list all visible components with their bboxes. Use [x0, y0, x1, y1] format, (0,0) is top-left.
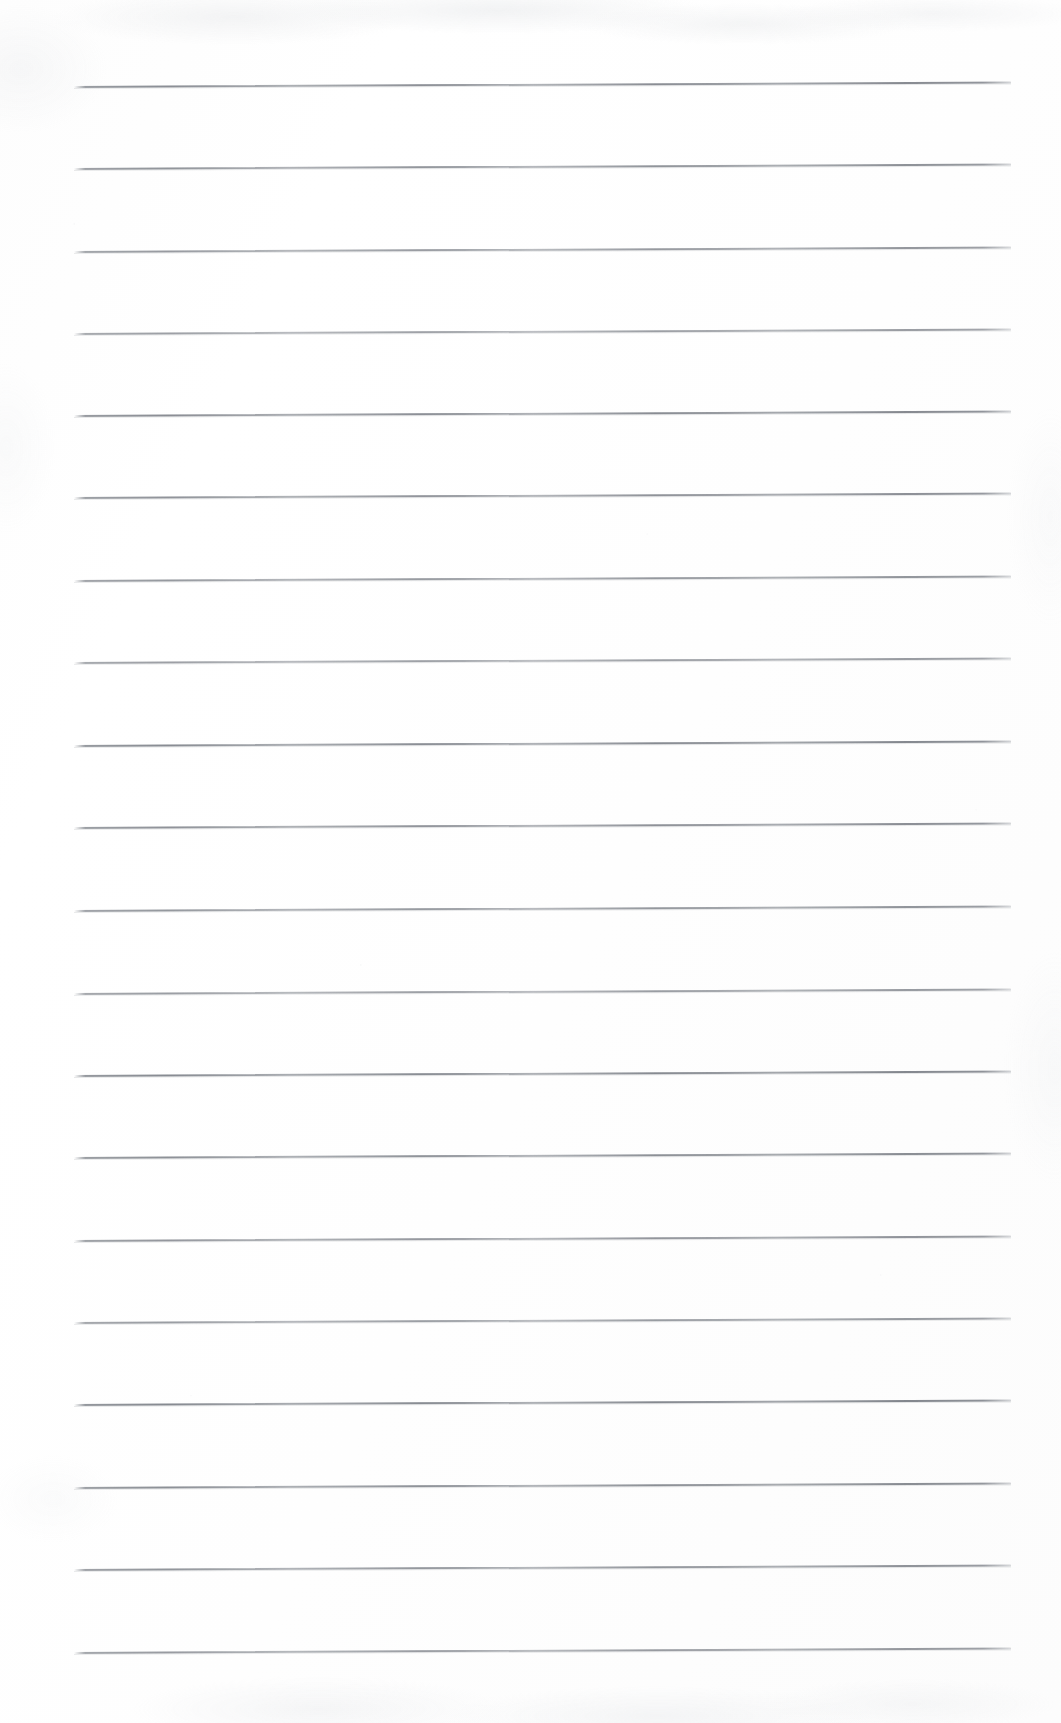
- rule-line-3: [74, 246, 1011, 253]
- rule-line-12: [74, 988, 1011, 995]
- ruled-lines-layer: [0, 0, 1061, 1723]
- rule-line-16: [74, 1317, 1011, 1324]
- rule-line-4: [74, 328, 1011, 335]
- rule-line-14: [74, 1152, 1011, 1159]
- rule-line-5: [74, 410, 1011, 417]
- rule-line-20: [74, 1647, 1011, 1654]
- rule-line-9: [74, 740, 1011, 747]
- rule-line-17: [74, 1399, 1011, 1406]
- rule-line-15: [74, 1235, 1011, 1242]
- rule-line-13: [74, 1070, 1011, 1077]
- rule-line-1: [74, 81, 1011, 88]
- rule-line-19: [74, 1564, 1011, 1571]
- scanned-page: [0, 0, 1061, 1723]
- rule-line-2: [74, 163, 1011, 170]
- rule-line-10: [74, 822, 1011, 829]
- rule-line-8: [74, 657, 1011, 664]
- rule-line-6: [74, 492, 1011, 499]
- rule-line-11: [74, 905, 1011, 912]
- rule-line-18: [74, 1482, 1011, 1489]
- rule-line-7: [74, 575, 1011, 582]
